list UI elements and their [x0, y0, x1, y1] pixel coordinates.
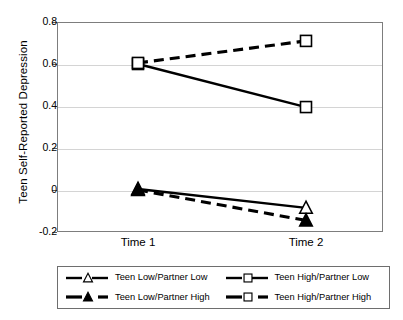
open-triangle-marker	[84, 273, 93, 282]
gridline	[58, 65, 382, 66]
legend-label: Teen Low/Partner Low	[115, 273, 208, 282]
y-tick-label: 0.8	[7, 15, 57, 27]
y-tick-label: 0.2	[7, 141, 57, 153]
legend-key-open-square	[224, 271, 270, 285]
y-axis-title: Teen Self-Reported Depression	[17, 17, 29, 227]
y-tick-label: -0.2	[7, 225, 57, 237]
legend-label: Teen High/Partner Low	[275, 273, 370, 282]
gridline	[58, 191, 382, 192]
legend-entry-3: Teen Low/Partner High	[64, 290, 224, 304]
legend-entry-4: Teen High/Partner High	[224, 290, 384, 304]
gridline	[58, 149, 382, 150]
gridline	[58, 107, 382, 108]
y-tick-label: 0	[7, 183, 57, 195]
y-tick-label: 0.4	[7, 99, 57, 111]
legend-key-open-square	[224, 290, 270, 304]
legend-key-filled-triangle	[64, 290, 110, 304]
plot-area	[57, 22, 383, 232]
filled-triangle-marker	[84, 292, 93, 301]
chart-legend: Teen Low/Partner LowTeen High/Partner Lo…	[57, 266, 390, 309]
legend-label: Teen High/Partner High	[275, 293, 372, 302]
open-square-marker	[244, 293, 252, 301]
legend-entry-1: Teen Low/Partner Low	[64, 271, 224, 285]
x-tick-label-2: Time 2	[261, 236, 351, 248]
open-square-marker	[244, 274, 252, 282]
x-tick-label-1: Time 1	[93, 236, 183, 248]
chart-figure: Teen Self-Reported Depression 0.80.60.40…	[0, 0, 403, 320]
legend-label: Teen Low/Partner High	[115, 293, 210, 302]
y-tick-label: 0.6	[7, 57, 57, 69]
legend-entry-2: Teen High/Partner Low	[224, 271, 384, 285]
legend-key-open-triangle	[64, 271, 110, 285]
